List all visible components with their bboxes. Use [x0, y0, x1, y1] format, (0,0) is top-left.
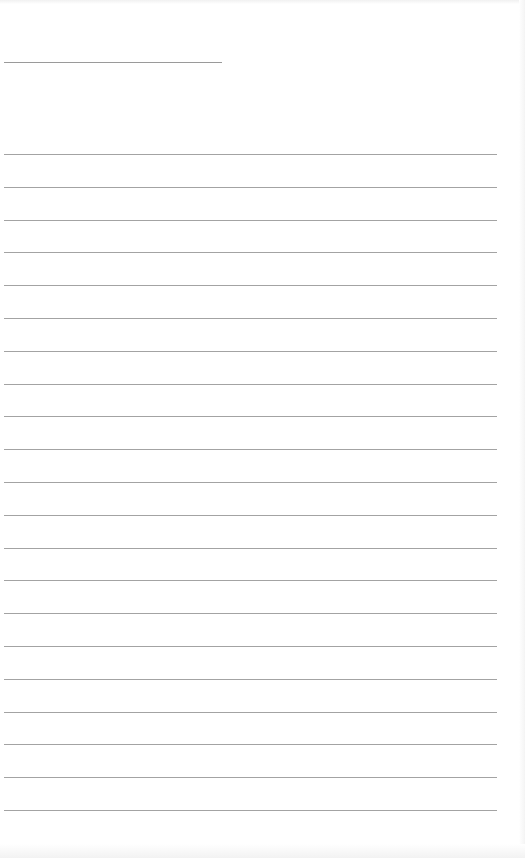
- ruled-line: [4, 187, 497, 188]
- ruled-line: [4, 318, 497, 319]
- title-writing-line: [4, 62, 222, 63]
- ruled-line: [4, 416, 497, 417]
- ruled-line: [4, 351, 497, 352]
- ruled-line: [4, 449, 497, 450]
- ruled-line: [4, 482, 497, 483]
- ruled-line: [4, 712, 497, 713]
- scan-edge-top: [0, 0, 525, 4]
- ruled-line: [4, 744, 497, 745]
- ruled-line: [4, 285, 497, 286]
- ruled-line: [4, 252, 497, 253]
- ruled-line: [4, 515, 497, 516]
- ruled-line: [4, 613, 497, 614]
- scan-edge-bottom: [0, 844, 525, 858]
- scan-edge-right: [519, 0, 525, 858]
- ruled-line: [4, 548, 497, 549]
- ruled-line: [4, 154, 497, 155]
- ruled-line: [4, 384, 497, 385]
- ruled-line: [4, 646, 497, 647]
- ruled-line: [4, 679, 497, 680]
- ruled-line: [4, 810, 497, 811]
- ruled-line: [4, 220, 497, 221]
- ruled-line: [4, 580, 497, 581]
- ruled-line: [4, 777, 497, 778]
